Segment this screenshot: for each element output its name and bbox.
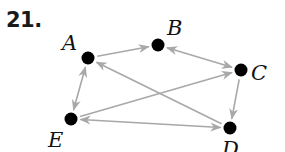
directed-graph: ABCDE <box>0 0 285 152</box>
edge-e-c <box>80 73 232 117</box>
edge-e-d <box>81 120 221 128</box>
node-label-b: B <box>166 16 182 40</box>
node-c <box>235 64 248 77</box>
node-b <box>152 39 165 52</box>
edge-b-c <box>167 48 232 68</box>
edge-a-e <box>74 67 86 110</box>
node-label-e: E <box>47 128 63 152</box>
node-label-c: C <box>251 61 267 85</box>
node-d <box>224 122 237 135</box>
edges-layer <box>74 47 240 128</box>
edge-a-b <box>97 47 148 57</box>
node-e <box>65 113 78 126</box>
node-a <box>82 52 95 65</box>
edge-c-d <box>232 79 239 118</box>
node-label-a: A <box>60 31 77 55</box>
node-label-d: D <box>221 137 239 152</box>
